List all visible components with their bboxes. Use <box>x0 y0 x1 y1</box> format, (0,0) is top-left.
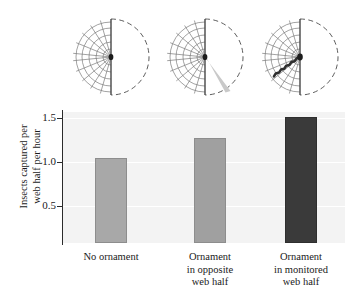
web-diagram-no-ornament <box>64 8 158 108</box>
y-axis-line <box>62 110 63 245</box>
web-diagram-row <box>0 8 362 108</box>
web-hub <box>203 54 208 60</box>
web-hub <box>109 54 114 60</box>
category-label-ornament-monitored: Ornament in monitored web half <box>241 251 361 289</box>
y-axis-label-wrap: Insects captured per web half per hour <box>6 114 32 242</box>
figure-panel: 1.5 1.0 0.5 Insects captured per web hal… <box>0 0 362 302</box>
bar-ornament-monitored[interactable] <box>285 117 317 243</box>
web-left-half-mesh <box>73 19 111 95</box>
bar-chart: 1.5 1.0 0.5 Insects captured per web hal… <box>0 106 362 302</box>
web-hub <box>297 54 303 61</box>
y-tick-0.5 <box>57 206 62 207</box>
web-diagram-ornament-monitored <box>253 8 347 108</box>
ornament-band-light <box>205 55 231 93</box>
web-right-half-dashed-outline <box>111 19 149 95</box>
y-tick-1.0 <box>57 162 62 163</box>
web-right-half-dashed-outline <box>300 19 338 95</box>
y-axis-label: Insects captured per web half per hour <box>18 107 43 227</box>
web-left-half-mesh <box>167 19 205 95</box>
bar-ornament-opposite[interactable] <box>194 138 226 243</box>
y-tick-1.5 <box>57 118 62 119</box>
bar-no-ornament[interactable] <box>95 158 127 243</box>
web-left-half-mesh <box>262 19 300 95</box>
web-diagram-ornament-opposite <box>158 8 252 108</box>
